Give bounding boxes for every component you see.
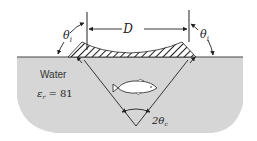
- right-angle-arc-upper: [191, 24, 198, 30]
- left-angle-arc-lower: [58, 42, 64, 54]
- medium-label: Water: [40, 69, 67, 80]
- snell-window-diagram: D θi θi 2θc Water εr = 81: [0, 0, 257, 141]
- permittivity-label: εr = 81: [37, 88, 73, 100]
- width-label: D: [122, 22, 133, 36]
- left-angle-arc-upper: [70, 23, 84, 33]
- right-angle-label: θi: [200, 28, 209, 43]
- left-angle-label: θi: [63, 29, 72, 44]
